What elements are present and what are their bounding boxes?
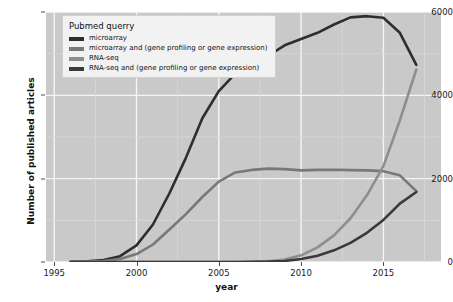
y-tick-label: 0 bbox=[419, 257, 453, 267]
y-tick-label: 2000 bbox=[419, 174, 453, 184]
legend-item: microarray bbox=[69, 35, 268, 42]
x-axis-title-text: year bbox=[0, 282, 453, 292]
y-tick-mark bbox=[41, 178, 45, 179]
legend-color-swatch bbox=[69, 67, 84, 71]
y-axis-title-text: Number of published articles bbox=[26, 77, 36, 224]
y-tick-mark bbox=[41, 95, 45, 96]
legend-item: microarray and (gene profiling or gene e… bbox=[69, 45, 268, 52]
y-tick-mark bbox=[41, 12, 45, 13]
legend: Pubmed querry microarraymicroarray and (… bbox=[62, 15, 276, 78]
x-tick-label: 2010 bbox=[290, 268, 312, 278]
y-tick-label: 4000 bbox=[419, 90, 453, 100]
x-tick-label: 2015 bbox=[373, 268, 395, 278]
series-line bbox=[71, 192, 417, 262]
x-tick-label: 2005 bbox=[208, 268, 230, 278]
x-tick-label: 1995 bbox=[43, 268, 65, 278]
legend-item-label: microarray and (gene profiling or gene e… bbox=[89, 45, 268, 52]
y-tick-mark bbox=[41, 262, 45, 263]
chart-figure: Number of published articles year Pubmed… bbox=[0, 0, 453, 302]
legend-item-label: RNA-seq bbox=[89, 55, 119, 62]
legend-item-label: RNA-seq and (gene profiling or gene expr… bbox=[89, 65, 259, 72]
x-tick-mark bbox=[383, 262, 384, 266]
legend-item-label: microarray bbox=[89, 35, 127, 42]
legend-color-swatch bbox=[69, 47, 84, 51]
legend-title: Pubmed querry bbox=[69, 21, 268, 31]
legend-item: RNA-seq and (gene profiling or gene expr… bbox=[69, 65, 268, 72]
x-tick-mark bbox=[301, 262, 302, 266]
x-tick-mark bbox=[137, 262, 138, 266]
legend-color-swatch bbox=[69, 37, 84, 41]
y-axis-title: Number of published articles bbox=[19, 71, 38, 231]
y-tick-label: 6000 bbox=[419, 7, 453, 17]
legend-entries: microarraymicroarray and (gene profiling… bbox=[69, 35, 268, 72]
legend-color-swatch bbox=[69, 57, 84, 61]
series-line bbox=[71, 169, 417, 262]
x-tick-label: 2000 bbox=[126, 268, 148, 278]
x-tick-mark bbox=[219, 262, 220, 266]
legend-item: RNA-seq bbox=[69, 55, 268, 62]
x-tick-mark bbox=[54, 262, 55, 266]
